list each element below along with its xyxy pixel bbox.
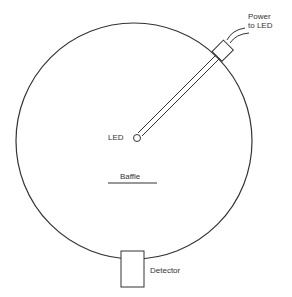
led-mount-box	[212, 40, 233, 61]
sphere-outline	[16, 23, 252, 259]
power-label: Power to LED	[248, 12, 272, 30]
led-rod	[138, 54, 217, 133]
detector-box	[121, 251, 144, 287]
detector-label: Detector	[150, 266, 180, 275]
led-icon	[134, 135, 141, 142]
led-label: LED	[108, 133, 124, 142]
integrating-sphere-diagram	[0, 0, 292, 297]
baffle-label: Baffle	[120, 172, 140, 181]
